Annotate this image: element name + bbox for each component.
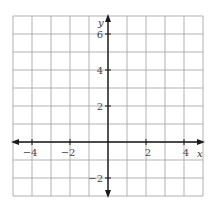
x-axis-left-arrow-icon (11, 139, 19, 145)
y-tick-label: 6 (97, 29, 103, 40)
x-tick-label: 2 (145, 147, 151, 158)
y-axis-label: y (97, 17, 104, 28)
x-axis-right-arrow-icon (197, 139, 205, 145)
x-axis-label: x (197, 148, 203, 159)
x-tick-label: −4 (23, 147, 38, 158)
y-tick-label: 4 (97, 65, 103, 76)
y-axis-down-arrow-icon (105, 190, 111, 198)
y-tick-label: −2 (88, 173, 103, 184)
x-tick-label: −2 (61, 147, 76, 158)
y-axis-up-arrow-icon (105, 14, 111, 22)
x-tick-label: 4 (183, 147, 189, 158)
coordinate-plane: −4−224642−2 x y (0, 0, 215, 208)
y-tick-label: 2 (97, 101, 103, 112)
